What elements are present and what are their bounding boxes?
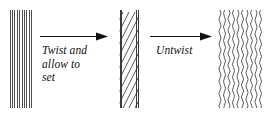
untwist-arrow — [150, 31, 214, 42]
crimped-fiber-bundle — [218, 10, 263, 108]
untwist-label-line-1: Untwist — [156, 44, 193, 58]
clipped-text-above-figure — [0, 0, 275, 7]
twisted-fiber-bundle — [119, 10, 140, 108]
twist-label-line-3: set — [42, 71, 87, 85]
arrow-right-icon — [40, 31, 110, 42]
wavy-vertical-lines-graphic — [218, 10, 263, 108]
arrow-right-icon — [150, 31, 214, 42]
untwist-label: Untwist — [156, 44, 193, 58]
twist-label-line-1: Twist and — [42, 44, 87, 58]
diagonal-hatch-lines-graphic — [119, 10, 140, 108]
untwisted-fiber-bundle — [9, 10, 32, 108]
twist-label-line-2: allow to — [42, 58, 87, 72]
figure-canvas: Twist and allow to set — [0, 0, 275, 116]
straight-vertical-lines-graphic — [9, 10, 32, 108]
twist-and-allow-to-set-label: Twist and allow to set — [42, 44, 87, 85]
twist-arrow — [40, 31, 110, 42]
